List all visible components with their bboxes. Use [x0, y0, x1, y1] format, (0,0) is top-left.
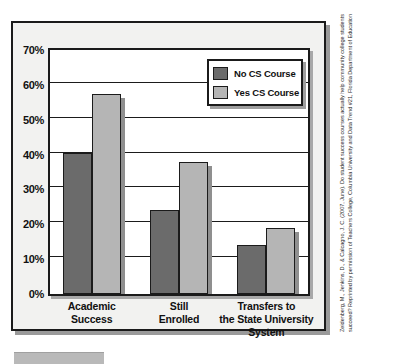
x-axis-label-line: Transfers to	[206, 300, 326, 313]
y-axis-tick-label: 30%	[2, 183, 44, 195]
page-artifact-bar	[14, 352, 104, 364]
y-axis-tick-label: 20%	[2, 218, 44, 230]
gridline	[50, 221, 308, 222]
legend-item: No CS Course	[213, 65, 297, 82]
x-axis-label-line: the State University	[206, 313, 326, 326]
citation-text: Zeidenberg, M., Jenkins, D., & Calcagno,…	[338, 6, 354, 332]
gridline	[50, 117, 308, 118]
y-axis-tick-label: 0%	[2, 288, 44, 300]
legend-swatch	[213, 86, 228, 99]
x-axis-category-label: Transfers tothe State UniversitySystem	[206, 300, 326, 339]
y-axis-tick-label: 60%	[2, 79, 44, 91]
gridline	[50, 256, 308, 257]
y-axis-tick-label: 70%	[2, 44, 44, 56]
legend-label: Yes CS Course	[234, 87, 299, 98]
chart-legend: No CS CourseYes CS Course	[207, 59, 303, 106]
y-axis-tick-label: 50%	[2, 114, 44, 126]
gridline	[50, 186, 308, 187]
legend-swatch	[213, 67, 228, 80]
chart-figure: 0%10%20%30%40%50%60%70% AcademicSuccessS…	[0, 0, 404, 364]
legend-label: No CS Course	[234, 68, 295, 79]
x-axis-labels: AcademicSuccessStillEnrolledTransfers to…	[48, 300, 310, 356]
legend-item: Yes CS Course	[213, 84, 297, 101]
y-axis: 0%10%20%30%40%50%60%70%	[0, 48, 44, 296]
y-axis-tick-label: 10%	[2, 253, 44, 265]
x-axis-label-line: System	[206, 326, 326, 339]
y-axis-tick-label: 40%	[2, 149, 44, 161]
gridline	[50, 152, 308, 153]
citation-container: Zeidenberg, M., Jenkins, D., & Calcagno,…	[338, 0, 400, 364]
